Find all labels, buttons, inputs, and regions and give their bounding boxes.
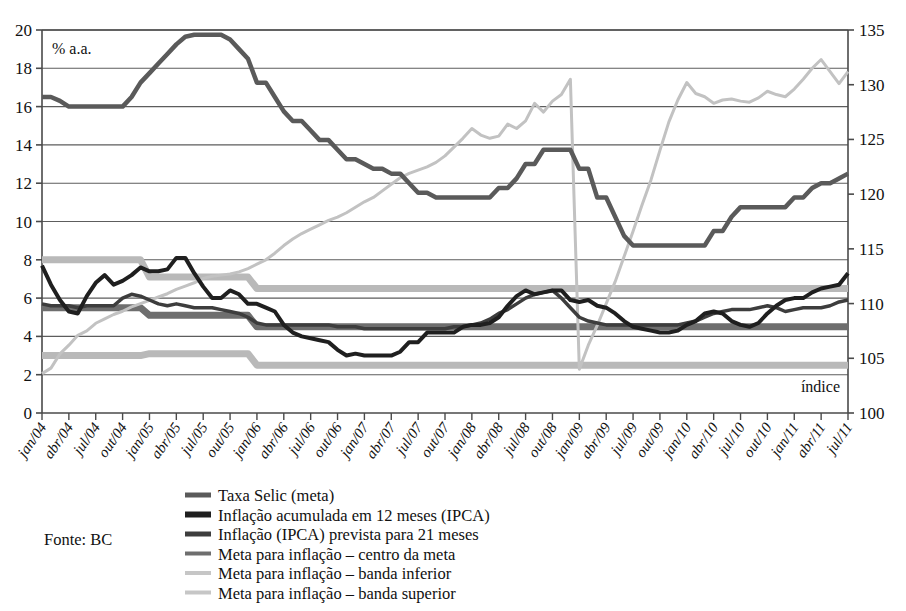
left-axis-tick-label: 6: [24, 289, 33, 308]
left-axis-tick-label: 12: [15, 174, 32, 193]
legend-label: Taxa Selic (meta): [218, 486, 334, 505]
legend-label: Inflação acumulada em 12 meses (IPCA): [218, 506, 490, 525]
right-axis-tick-label: 105: [859, 349, 885, 368]
legend-label: Inflação (IPCA) prevista para 21 meses: [218, 525, 479, 544]
chart-container: 02468101214161820 1001051101151201251301…: [0, 0, 906, 611]
right-axis-tick-label: 110: [859, 295, 884, 314]
left-axis-tick-label: 0: [24, 404, 33, 423]
legend-label: Meta para inflação – banda inferior: [218, 564, 452, 583]
left-axis-tick-label: 8: [24, 251, 33, 270]
source-note: Fonte: BC: [44, 530, 112, 549]
right-axis-tick-label: 120: [859, 185, 885, 204]
right-axis-tick-label: 115: [859, 240, 884, 259]
inflation-selic-line-chart: 02468101214161820 1001051101151201251301…: [0, 0, 906, 611]
right-axis-tick-label: 135: [859, 21, 885, 40]
left-axis-unit-label: % a.a.: [52, 40, 92, 57]
left-axis-tick-label: 20: [15, 21, 32, 40]
right-axis-tick-label: 100: [859, 404, 885, 423]
left-axis-tick-label: 10: [15, 213, 32, 232]
left-axis-tick-label: 16: [15, 98, 32, 117]
legend-label: Meta para inflação – banda superior: [218, 584, 456, 603]
right-axis-tick-label: 130: [859, 76, 885, 95]
left-axis-tick-label: 4: [24, 327, 33, 346]
right-axis-unit-label: índice: [801, 378, 840, 395]
left-axis-tick-label: 2: [24, 366, 33, 385]
legend-label: Meta para inflação – centro da meta: [218, 545, 456, 564]
left-axis-tick-label: 14: [15, 136, 33, 155]
left-axis-tick-label: 18: [15, 59, 32, 78]
right-axis-tick-label: 125: [859, 130, 885, 149]
